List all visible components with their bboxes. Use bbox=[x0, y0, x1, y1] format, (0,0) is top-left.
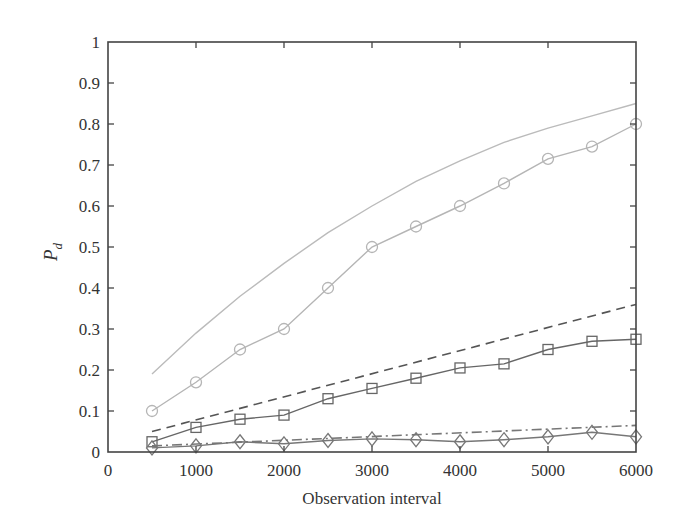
x-tick-label: 3000 bbox=[355, 461, 389, 480]
series-theory-mid bbox=[152, 304, 636, 431]
y-axis-label-sub: d bbox=[50, 242, 65, 249]
y-tick-label: 0.5 bbox=[79, 238, 100, 257]
y-tick-label: 0.6 bbox=[79, 197, 100, 216]
series-theory-high bbox=[152, 104, 636, 375]
series-line bbox=[152, 432, 636, 448]
x-axis-label: Observation interval bbox=[302, 489, 442, 508]
x-tick-label: 4000 bbox=[443, 461, 477, 480]
y-tick-label: 1 bbox=[92, 33, 101, 52]
series-simulation-high bbox=[147, 119, 642, 417]
chart-canvas: 0100020003000400050006000 00.10.20.30.40… bbox=[0, 0, 687, 527]
x-axis-ticks: 0100020003000400050006000 bbox=[104, 42, 653, 480]
y-tick-label: 0.1 bbox=[79, 402, 100, 421]
y-tick-label: 0.9 bbox=[79, 74, 100, 93]
y-tick-label: 0.2 bbox=[79, 361, 100, 380]
x-tick-label: 1000 bbox=[179, 461, 213, 480]
y-tick-label: 0 bbox=[92, 443, 101, 462]
x-tick-label: 0 bbox=[104, 461, 113, 480]
x-tick-label: 2000 bbox=[267, 461, 301, 480]
series-line bbox=[152, 124, 636, 411]
series-line bbox=[152, 104, 636, 375]
x-tick-label: 5000 bbox=[531, 461, 565, 480]
x-tick-label: 6000 bbox=[619, 461, 653, 480]
y-axis-label: Pd bbox=[40, 242, 65, 262]
series-simulation-low bbox=[147, 425, 642, 455]
y-tick-label: 0.3 bbox=[79, 320, 100, 339]
series-line bbox=[152, 304, 636, 431]
y-tick-label: 0.4 bbox=[79, 279, 101, 298]
series-line bbox=[152, 339, 636, 442]
y-axis-ticks: 00.10.20.30.40.50.60.70.80.91 bbox=[79, 33, 636, 462]
y-tick-label: 0.7 bbox=[79, 156, 101, 175]
series-layer bbox=[147, 104, 642, 455]
y-tick-label: 0.8 bbox=[79, 115, 100, 134]
series-simulation-mid bbox=[147, 334, 641, 447]
y-axis-label-main: P bbox=[40, 249, 61, 262]
